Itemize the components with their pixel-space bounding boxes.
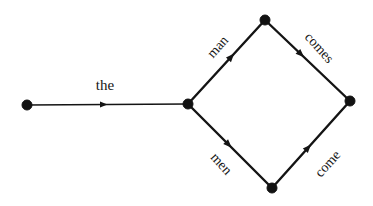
top-node[interactable]	[260, 15, 270, 25]
start-node[interactable]	[22, 100, 32, 110]
arrowheads-layer	[100, 49, 311, 153]
diagram-canvas: themancomesmencome	[0, 0, 373, 206]
arrowhead-the	[100, 102, 108, 108]
bottom-node[interactable]	[267, 183, 277, 193]
branch-node[interactable]	[183, 99, 193, 109]
end-node[interactable]	[345, 96, 355, 106]
edge-comes	[265, 20, 350, 101]
edge-label-the: the	[96, 78, 114, 93]
edge-man	[188, 20, 265, 104]
